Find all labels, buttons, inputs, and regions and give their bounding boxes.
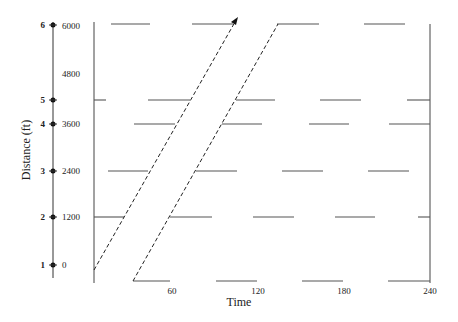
y-axis-label: Distance (ft) bbox=[19, 120, 33, 180]
node-label-3: 3 bbox=[41, 166, 46, 176]
progression-trailing-edge bbox=[133, 24, 278, 281]
distance-tick-0: 0 bbox=[62, 260, 67, 270]
time-tick-60: 60 bbox=[168, 286, 178, 296]
distance-tick-1200: 1200 bbox=[62, 212, 81, 222]
node-label-4: 4 bbox=[41, 119, 46, 129]
x-axis-label: Time bbox=[227, 295, 252, 309]
node-label-2: 2 bbox=[41, 212, 46, 222]
node-label-6: 6 bbox=[41, 20, 46, 30]
node-label-5: 5 bbox=[41, 95, 46, 105]
distance-tick-4800: 4800 bbox=[62, 69, 81, 79]
time-tick-240: 240 bbox=[423, 286, 437, 296]
time-tick-180: 180 bbox=[337, 286, 351, 296]
signal-green-bands bbox=[94, 24, 430, 281]
distance-tick-2400: 2400 bbox=[62, 166, 81, 176]
time-space-diagram: 6 5 4 3 2 1 6000 4800 3600 2400 1200 0 D… bbox=[0, 0, 458, 322]
progression-leading-edge bbox=[94, 22, 235, 270]
distance-tick-3600: 3600 bbox=[62, 119, 81, 129]
node-label-1: 1 bbox=[41, 260, 46, 270]
time-tick-120: 120 bbox=[251, 286, 265, 296]
distance-tick-6000: 6000 bbox=[62, 21, 81, 31]
